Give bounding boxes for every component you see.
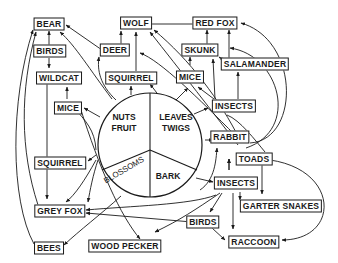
node-red-fox: RED FOX	[192, 17, 237, 30]
segment-label-line2: FRUIT	[111, 123, 136, 134]
node-grey-fox: GREY FOX	[34, 205, 85, 218]
node-skunk: SKUNK	[181, 44, 218, 57]
node-salamander: SALAMANDER	[221, 58, 289, 71]
node-birds-top: BIRDS	[33, 45, 66, 58]
node-birds-bottom: BIRDS	[186, 216, 219, 229]
node-wood-pecker: WOOD PECKER	[88, 240, 161, 253]
node-bear: BEAR	[34, 18, 65, 31]
node-garter-snakes: GARTER SNAKES	[240, 200, 322, 213]
node-mice-right: MICE	[176, 71, 204, 84]
node-wildcat: WILDCAT	[36, 72, 82, 85]
node-squirrel-left: SQUIRREL	[34, 157, 86, 170]
node-deer: DEER	[100, 44, 130, 57]
food-web-diagram: NUTS FRUIT LEAVES TWIGS BLOSSOMS BARK BE…	[0, 0, 338, 263]
node-insects-bottom: INSECTS	[214, 177, 258, 190]
node-squirrel-top: SQUIRREL	[105, 72, 157, 85]
segment-bark: BARK	[156, 171, 181, 182]
node-insects-top: INSECTS	[212, 100, 256, 113]
node-rabbit: RABBIT	[210, 131, 249, 144]
segment-leaves-twigs: LEAVES TWIGS	[159, 112, 192, 134]
node-toads: TOADS	[236, 153, 273, 166]
segment-label-line2: TWIGS	[159, 123, 192, 134]
node-raccoon: RACCOON	[228, 236, 279, 249]
segment-label-line1: LEAVES	[159, 112, 192, 123]
node-bees: BEES	[34, 242, 64, 255]
segment-label-line1: BARK	[156, 171, 181, 182]
segment-nuts-fruit: NUTS FRUIT	[111, 112, 136, 134]
segment-label-line1: NUTS	[111, 112, 136, 123]
node-mice-left: MICE	[54, 102, 82, 115]
node-wolf: WOLF	[120, 17, 152, 30]
